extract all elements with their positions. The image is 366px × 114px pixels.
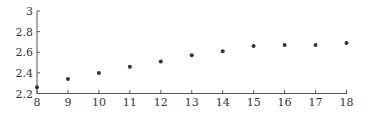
data-point xyxy=(97,71,101,75)
data-points xyxy=(35,41,349,89)
x-axis: 89101112131415161718 xyxy=(34,90,354,109)
x-tick-label: 9 xyxy=(64,96,71,109)
x-tick-label: 10 xyxy=(92,96,106,109)
data-point xyxy=(35,85,39,89)
data-point xyxy=(252,44,256,48)
x-tick-label: 16 xyxy=(278,96,292,109)
x-tick-label: 12 xyxy=(154,96,168,109)
data-point xyxy=(283,43,287,47)
x-tick-label: 11 xyxy=(123,96,137,109)
y-tick-label: 2.8 xyxy=(16,26,34,39)
x-tick-label: 13 xyxy=(185,96,199,109)
data-point xyxy=(128,65,132,69)
data-point xyxy=(345,41,349,45)
data-point xyxy=(190,53,194,57)
scatter-chart: 2.22.42.62.83 89101112131415161718 xyxy=(0,0,366,114)
x-tick-label: 15 xyxy=(247,96,261,109)
x-tick-label: 8 xyxy=(34,96,41,109)
x-tick-label: 18 xyxy=(340,96,354,109)
data-point xyxy=(221,49,225,53)
y-tick-label: 2.6 xyxy=(16,46,34,59)
y-tick-label: 2.4 xyxy=(16,67,34,80)
x-tick-label: 17 xyxy=(309,96,323,109)
data-point xyxy=(159,60,163,64)
y-tick-label: 2.2 xyxy=(16,88,34,101)
x-tick-label: 14 xyxy=(216,96,230,109)
y-tick-label: 3 xyxy=(26,5,33,18)
data-point xyxy=(314,43,318,47)
data-point xyxy=(66,77,70,81)
